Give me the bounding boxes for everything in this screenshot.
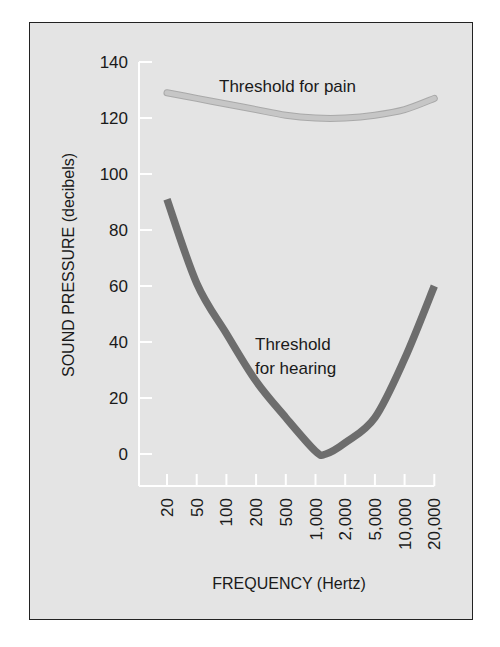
y-tick-label: 40 <box>109 333 128 352</box>
hearing-curve-label-line2: for hearing <box>255 359 336 378</box>
x-tick-label: 5,000 <box>366 498 385 541</box>
y-axis-ticks: 020406080100120140 <box>100 53 152 464</box>
x-axis-title: FREQUENCY (Hertz) <box>212 575 366 592</box>
x-tick-label: 1,000 <box>307 498 326 541</box>
y-tick-label: 140 <box>100 53 128 72</box>
x-tick-label: 2,000 <box>336 498 355 541</box>
chart-canvas: 020406080100120140 20501002005001,0002,0… <box>0 0 500 647</box>
y-tick-label: 0 <box>119 445 128 464</box>
x-tick-label: 50 <box>188 498 207 517</box>
x-tick-label: 500 <box>277 498 296 526</box>
y-tick-label: 20 <box>109 389 128 408</box>
x-tick-label: 20 <box>158 498 177 517</box>
x-tick-label: 100 <box>217 498 236 526</box>
hearing-curve-label-line1: Threshold <box>255 335 331 354</box>
curves <box>167 93 434 456</box>
pain-threshold-curve <box>167 93 434 119</box>
y-tick-label: 100 <box>100 165 128 184</box>
y-axis-title: SOUND PRESSURE (decibels) <box>60 153 77 377</box>
hearing-threshold-curve <box>167 199 434 455</box>
y-tick-label: 80 <box>109 221 128 240</box>
x-tick-label: 10,000 <box>396 498 415 550</box>
x-tick-label: 200 <box>247 498 266 526</box>
pain-curve-label: Threshold for pain <box>219 77 356 96</box>
y-tick-label: 60 <box>109 277 128 296</box>
y-tick-label: 120 <box>100 109 128 128</box>
x-tick-label: 20,000 <box>425 498 444 550</box>
